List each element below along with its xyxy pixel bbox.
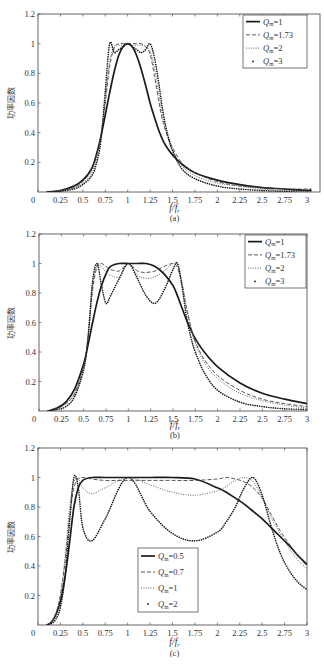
y-tick-label: 0.6 [24, 532, 35, 542]
x-tick-label: 1.75 [188, 414, 203, 424]
x-tick-label: 0 [31, 628, 35, 638]
x-tick-label: 2 [215, 195, 219, 205]
legend-label: Qm=1.73 [263, 30, 293, 41]
y-tick-label: 0.6 [25, 318, 36, 328]
y-axis-label: 功率因数 [6, 521, 16, 553]
y-tick-label: 1.2 [25, 229, 36, 239]
x-tick-label: 2.75 [277, 414, 292, 424]
y-tick-label: 0.8 [24, 502, 35, 512]
panel-caption: (b) [170, 430, 180, 440]
x-tick-label: 1 [126, 195, 130, 205]
y-tick-label: 0.8 [25, 288, 36, 298]
x-tick-label: 0.25 [53, 628, 68, 638]
x-tick-label: 1 [126, 628, 130, 638]
x-tick-label: 0 [31, 195, 35, 205]
legend-label: Qm=2 [265, 263, 284, 274]
legend-label: Qm=1 [263, 17, 282, 28]
panel-caption: (c) [170, 648, 180, 658]
chart-panel-c: 00.250.50.7511.251.51.7522.252.52.7530.2… [6, 443, 309, 658]
x-tick-label: 1.25 [143, 195, 158, 205]
y-tick-label: 1 [31, 473, 35, 483]
x-tick-label: 0.5 [78, 628, 89, 638]
y-tick-label: 1.2 [24, 443, 35, 453]
y-tick-label: 0.2 [24, 591, 35, 601]
x-tick-label: 1.75 [187, 195, 202, 205]
y-tick-label: 0.4 [24, 561, 35, 571]
legend-label: Qm=1 [265, 237, 284, 248]
x-tick-label: 1.75 [187, 628, 202, 638]
panel-caption: (a) [170, 213, 180, 223]
x-tick-label: 3 [305, 414, 309, 424]
x-tick-label: 0.5 [78, 195, 89, 205]
legend: Qm=1Qm=1.73Qm=2Qm=3 [243, 15, 307, 68]
legend-label: Qm=2 [158, 599, 177, 610]
legend-label: Qm=3 [263, 56, 282, 67]
y-tick-label: 0.2 [25, 377, 36, 387]
x-tick-label: 3 [305, 195, 309, 205]
x-tick-label: 0.25 [53, 195, 68, 205]
y-tick-label: 0.2 [24, 157, 35, 167]
x-tick-label: 2.25 [232, 195, 247, 205]
y-tick-label: 1.2 [24, 9, 35, 19]
y-axis-label: 功率因数 [6, 307, 16, 339]
x-tick-label: 0.75 [98, 628, 113, 638]
x-tick-label: 0 [32, 414, 36, 424]
x-tick-label: 1.25 [143, 414, 158, 424]
x-tick-label: 0.5 [78, 414, 89, 424]
x-tick-label: 2.25 [233, 414, 248, 424]
x-tick-label: 2.5 [257, 414, 268, 424]
y-tick-label: 0.4 [25, 347, 36, 357]
legend: Qm=1Qm=1.73Qm=2Qm=3 [245, 235, 306, 288]
x-tick-label: 2 [215, 628, 219, 638]
legend-label: Qm=1 [158, 583, 177, 594]
y-tick-label: 1 [32, 259, 36, 269]
y-tick-label: 1 [31, 39, 35, 49]
legend-label: Qm=0.5 [158, 551, 184, 562]
y-axis-label: 功率因数 [6, 87, 16, 119]
x-tick-label: 2.75 [277, 195, 292, 205]
x-tick-label: 2.5 [257, 628, 268, 638]
x-axis-label: f/fr [169, 637, 180, 648]
legend-label: Qm=3 [265, 276, 284, 287]
legend-label: Qm=0.7 [158, 567, 184, 578]
legend-label: Qm=1.73 [265, 250, 295, 261]
x-tick-label: 3 [305, 628, 309, 638]
x-tick-label: 0.75 [99, 414, 114, 424]
y-tick-label: 0.8 [24, 68, 35, 78]
legend: Qm=0.5Qm=0.7Qm=1Qm=2 [138, 548, 198, 612]
legend-label: Qm=2 [263, 43, 282, 54]
x-tick-label: 1.25 [143, 628, 158, 638]
y-tick-label: 0.6 [24, 98, 35, 108]
y-tick-label: 0.4 [24, 128, 35, 138]
x-tick-label: 2 [216, 414, 220, 424]
x-tick-label: 1 [126, 414, 130, 424]
figure: 00.250.50.7511.251.51.7522.252.52.7530.2… [0, 0, 324, 670]
x-tick-label: 0.25 [54, 414, 69, 424]
x-tick-label: 2.75 [277, 628, 292, 638]
x-tick-label: 2.25 [232, 628, 247, 638]
chart-panel-b: 00.250.50.7511.251.51.7522.252.52.7530.2… [6, 229, 309, 440]
x-tick-label: 0.75 [98, 195, 113, 205]
chart-panel-a: 00.250.50.7511.251.51.7522.252.52.7530.2… [6, 9, 320, 223]
x-tick-label: 2.5 [257, 195, 268, 205]
